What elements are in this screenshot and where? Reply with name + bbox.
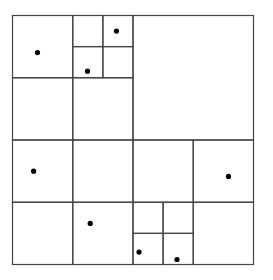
data-point-1 bbox=[35, 50, 40, 55]
data-point-4 bbox=[31, 169, 36, 174]
quadtree-cell-se-sw-ne bbox=[163, 202, 193, 233]
quadtree-cell-sw-ne bbox=[73, 140, 133, 202]
quadtree-cell-se-sw-sw bbox=[133, 233, 163, 264]
quadtree-cell-sw-sw bbox=[13, 202, 73, 264]
data-point-3 bbox=[85, 69, 90, 74]
cells-group bbox=[13, 16, 254, 265]
quadtree-cell-se-ne bbox=[193, 140, 253, 202]
quadtree-cell-nw-se bbox=[73, 78, 133, 140]
data-point-5 bbox=[226, 174, 231, 179]
data-point-6 bbox=[88, 221, 93, 226]
quadtree-cell-nw-sw bbox=[13, 78, 73, 140]
quadtree-cell-ne bbox=[133, 16, 254, 141]
data-point-8 bbox=[174, 257, 179, 262]
quadtree-cell-se-se bbox=[193, 202, 253, 264]
quadtree-cell-se-nw bbox=[133, 140, 193, 202]
points-group bbox=[31, 28, 231, 262]
quadtree-diagram bbox=[0, 0, 273, 280]
data-point-2 bbox=[114, 28, 119, 33]
data-point-7 bbox=[136, 249, 141, 254]
quadtree-cell-sw-se bbox=[73, 202, 133, 264]
quadtree-cell-nw-nw bbox=[13, 16, 73, 78]
quadtree-cell-nw-ne-se bbox=[103, 47, 133, 78]
quadtree-cell-sw-nw bbox=[13, 140, 73, 202]
quadtree-cell-nw-ne-nw bbox=[73, 16, 103, 47]
quadtree-cell-se-sw-nw bbox=[133, 202, 163, 233]
